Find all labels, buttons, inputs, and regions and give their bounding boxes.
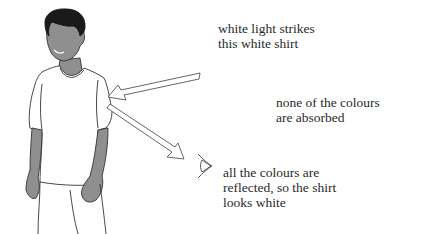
reflected-light-arrow	[107, 104, 184, 159]
incident-light-label: white light strikes this white shirt	[218, 21, 315, 51]
reflection-label: all the colours are reflected, so the sh…	[223, 165, 336, 210]
person-figure	[26, 9, 112, 234]
diagram-canvas: white light strikes this white shirt non…	[0, 0, 422, 234]
eye-icon	[198, 154, 212, 178]
incident-light-arrow	[108, 73, 200, 100]
absorption-label: none of the colours are absorbed	[276, 95, 380, 125]
